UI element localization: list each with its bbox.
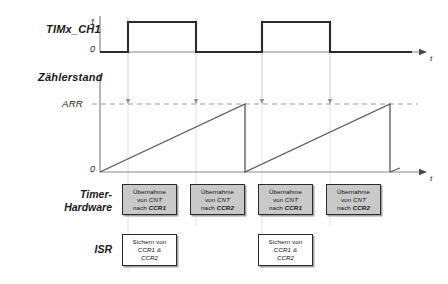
hardware-row-label-line2: Hardware [64, 201, 112, 213]
signal-time-axis-label: t [430, 54, 432, 63]
hardware-event-line1: Übernahme [259, 188, 312, 196]
isr-event-line2: CCR1 & [259, 246, 312, 254]
isr-event-box[interactable]: Sichern von CCR1 & CCR2 [122, 234, 177, 266]
isr-event-box[interactable]: Sichern von CCR1 & CCR2 [258, 234, 313, 266]
hardware-event-line3: nach CCR1 [259, 204, 312, 212]
signal-level-high: 1 [90, 17, 95, 27]
counter-time-axis-label: t [430, 174, 432, 183]
hardware-row-label-line1: Timer- [80, 188, 112, 200]
hardware-event-box[interactable]: Übernahme von CNT nach CCR1 [258, 184, 313, 215]
isr-event-line3: CCR2 [123, 254, 176, 262]
hardware-event-line2: von CNT [259, 196, 312, 204]
diagram-canvas [0, 0, 448, 284]
hardware-event-box[interactable]: Übernahme von CNT nach CCR1 [122, 184, 177, 215]
isr-event-line1: Sichern von [259, 238, 312, 246]
hardware-event-line1: Übernahme [123, 188, 176, 196]
isr-event-line3: CCR2 [259, 254, 312, 262]
hardware-event-line3: nach CCR1 [123, 204, 176, 212]
hardware-event-box[interactable]: Übernahme von CNT nach CCR2 [190, 184, 245, 215]
isr-event-line2: CCR1 & [123, 246, 176, 254]
hardware-event-line2: von CNT [191, 196, 244, 204]
arr-label: ARR [62, 98, 83, 109]
hardware-event-line1: Übernahme [327, 188, 380, 196]
hardware-event-box[interactable]: Übernahme von CNT nach CCR2 [326, 184, 381, 215]
counter-zero-label: 0 [90, 164, 95, 174]
signal-level-low: 0 [90, 44, 95, 54]
hardware-event-line2: von CNT [327, 196, 380, 204]
isr-event-line1: Sichern von [123, 238, 176, 246]
counter-label: Zählerstand [38, 71, 103, 83]
hardware-event-line3: nach CCR2 [191, 204, 244, 212]
hardware-row-label: Timer- Hardware [22, 188, 112, 214]
timing-diagram: TIMx_CH1 1 0 t Zählerstand ARR 0 t Timer… [0, 0, 448, 284]
signal-waveform [100, 22, 412, 52]
event-guide-lines [126, 18, 332, 104]
hardware-event-line1: Übernahme [191, 188, 244, 196]
hardware-event-line2: von CNT [123, 196, 176, 204]
counter-waveform [100, 104, 390, 172]
hardware-event-line3: nach CCR2 [327, 204, 380, 212]
counter-axes [100, 74, 427, 175]
isr-row-label: ISR [22, 243, 112, 256]
